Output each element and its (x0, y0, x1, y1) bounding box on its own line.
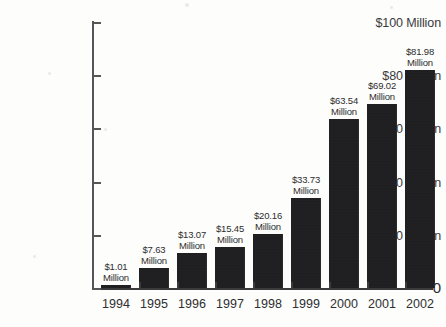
scan-artifact (390, 6, 393, 9)
bar-1994 (101, 285, 131, 288)
y-axis-tick-0 (92, 288, 101, 290)
x-axis-tick-1999 (329, 282, 331, 290)
x-axis-tick-1996 (215, 282, 217, 290)
x-axis-tick-1995 (177, 282, 179, 290)
value-label-2002: $81.98 Million (392, 47, 446, 68)
value-unit: Million (278, 186, 334, 197)
value-unit: Million (202, 235, 258, 246)
value-amount: $33.73 (278, 175, 334, 186)
value-label-1998: $20.16 Million (240, 211, 296, 232)
value-unit: Million (316, 107, 372, 118)
bar-1997 (215, 247, 245, 288)
value-label-2001: $69.02 Million (354, 81, 410, 102)
value-unit: Million (240, 222, 296, 233)
value-unit: Million (88, 273, 144, 284)
x-axis-tick-2001 (405, 282, 407, 290)
value-unit: Million (354, 92, 410, 103)
scan-artifact (185, 3, 189, 7)
value-unit: Million (392, 58, 446, 69)
x-axis-tick-2000 (367, 282, 369, 290)
x-axis-label-2002: 2002 (398, 297, 442, 311)
value-amount: $81.98 (392, 47, 446, 58)
value-label-1999: $33.73 Million (278, 175, 334, 196)
value-amount: $20.16 (240, 211, 296, 222)
scan-artifact (48, 72, 51, 75)
bar-2000 (329, 119, 359, 288)
bar-2001 (367, 104, 397, 288)
value-amount: $69.02 (354, 81, 410, 92)
value-unit: Million (126, 256, 182, 267)
bar-2002 (405, 70, 435, 288)
x-axis-tick-1997 (253, 282, 255, 290)
x-axis-tick-1998 (291, 282, 293, 290)
x-axis-tick-1994 (139, 282, 141, 290)
scan-artifact (33, 255, 36, 258)
